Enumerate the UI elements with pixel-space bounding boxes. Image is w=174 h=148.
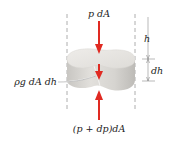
depth-label: h [144, 33, 150, 44]
fluid-element-diagram: p dA (p + dp)dA ρg dA dh h dh [0, 0, 174, 148]
bottom-force-label: (p + dp)dA [73, 123, 126, 134]
thickness-label: dh [151, 65, 163, 76]
weight-label: ρg dA dh [13, 76, 57, 87]
top-force-label: p dA [88, 8, 110, 19]
fluid-element [67, 49, 135, 91]
bottom-force-arrow [95, 90, 103, 120]
